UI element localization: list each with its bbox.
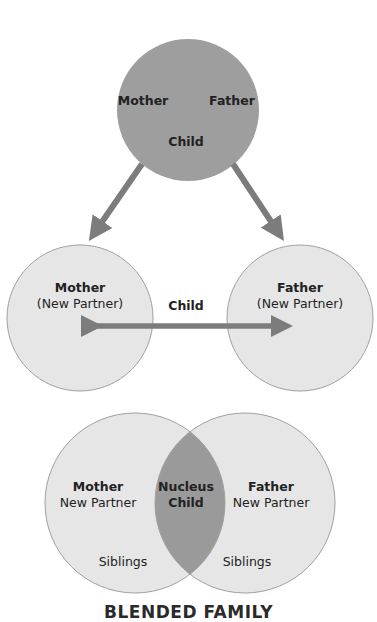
bottom-left-labels: Mother New Partner [60,479,137,510]
arrow-to-father [233,164,278,232]
bottom-left-siblings: Siblings [99,554,148,570]
nuclear-family-circle [117,39,259,181]
middle-left-labels: Mother (New Partner) [37,280,123,311]
mother-new-partner-circle [7,245,153,391]
middle-right-labels: Father (New Partner) [257,280,343,311]
bottom-right-siblings: Siblings [223,554,272,570]
middle-child-label: Child [168,298,204,314]
bottom-right-labels: Father New Partner [233,479,310,510]
bottom-father-title: Father [233,479,310,495]
bottom-mother-subtitle: New Partner [60,495,137,511]
overlap-nucleus: Nucleus [158,479,214,495]
top-father-label: Father [209,93,255,109]
middle-father-subtitle: (New Partner) [257,296,343,312]
bottom-mother-title: Mother [60,479,137,495]
top-mother-label: Mother [118,93,169,109]
middle-mother-title: Mother [37,280,123,296]
arrow-to-mother [95,164,142,232]
top-child-label: Child [168,134,204,150]
diagram-title: BLENDED FAMILY [104,602,273,622]
middle-mother-subtitle: (New Partner) [37,296,123,312]
bottom-father-subtitle: New Partner [233,495,310,511]
overlap-child: Child [158,495,214,511]
overlap-labels: Nucleus Child [158,479,214,510]
father-new-partner-circle [227,245,373,391]
middle-father-title: Father [257,280,343,296]
